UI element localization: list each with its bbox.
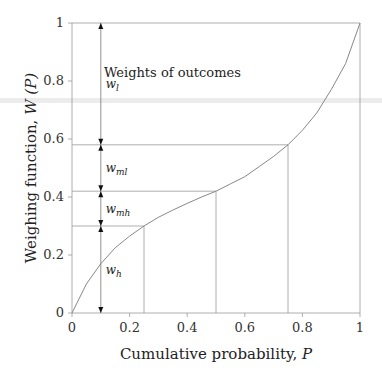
y-axis-title: Weighing function, W (P) xyxy=(22,73,40,263)
weight-label-wml: wml xyxy=(106,161,128,177)
weight-labels: wlwmlwmhwh xyxy=(106,77,131,279)
weight-label-wmh: wmh xyxy=(106,202,131,218)
y-tick-label: 0.8 xyxy=(43,73,64,88)
x-tick-label: 0.4 xyxy=(177,320,198,335)
x-tick-label: 1 xyxy=(356,320,364,335)
y-tick-label: 0 xyxy=(56,305,64,320)
x-tick-label: 0.2 xyxy=(119,320,140,335)
y-tick-label: 1 xyxy=(56,15,64,30)
x-tick-label: 0.6 xyxy=(234,320,255,335)
axis-ticks: 00.20.40.60.8100.20.40.60.81 xyxy=(43,15,364,335)
arrow-head-up-icon xyxy=(98,23,103,29)
arrow-head-down-icon xyxy=(98,220,103,226)
y-tick-label: 0.2 xyxy=(43,247,64,262)
arrow-head-up-icon xyxy=(98,145,103,151)
weighing-function-chart: 00.20.40.60.8100.20.40.60.81 Weights of … xyxy=(0,0,382,370)
x-tick-label: 0 xyxy=(68,320,76,335)
arrow-head-up-icon xyxy=(98,191,103,197)
weight-label-wh: wh xyxy=(106,263,122,279)
arrow-head-down-icon xyxy=(98,307,103,313)
arrow-head-up-icon xyxy=(98,226,103,232)
x-axis-title: Cumulative probability, P xyxy=(120,345,313,363)
arrow-head-down-icon xyxy=(98,139,103,145)
y-tick-label: 0.4 xyxy=(43,189,64,204)
y-tick-label: 0.6 xyxy=(43,131,64,146)
arrow-head-down-icon xyxy=(98,185,103,191)
x-tick-label: 0.8 xyxy=(292,320,313,335)
weights-header: Weights of outcomes xyxy=(104,65,241,80)
